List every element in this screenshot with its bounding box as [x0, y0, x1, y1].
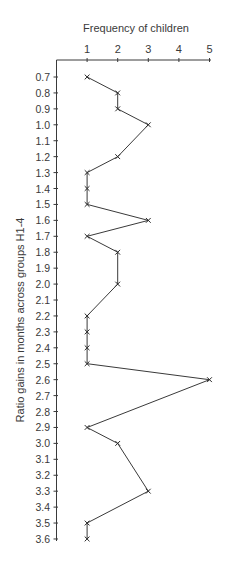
- y-ticks: 0.70.80.91.01.11.21.31.41.51.61.71.81.92…: [35, 71, 58, 545]
- x-tick-label: 4: [176, 43, 182, 55]
- y-tick-label: 1.3: [35, 167, 50, 179]
- x-tick-label: 1: [84, 43, 90, 55]
- y-tick-label: 1.7: [35, 230, 50, 242]
- y-tick-label: 3.3: [35, 485, 50, 497]
- y-tick-label: 0.7: [35, 71, 50, 83]
- y-tick-label: 1.4: [35, 183, 50, 195]
- y-tick-label: 2.5: [35, 358, 50, 370]
- y-tick-label: 1.2: [35, 151, 50, 163]
- y-tick-label: 1.0: [35, 119, 50, 131]
- y-tick-label: 2.3: [35, 326, 50, 338]
- y-tick-label: 2.6: [35, 374, 50, 386]
- data-point-x-marker: [146, 122, 151, 127]
- y-tick-label: 2.1: [35, 294, 50, 306]
- series-line: [87, 77, 209, 539]
- data-point-x-marker: [115, 441, 120, 446]
- y-axis-title: Ratio gains in months across groups H1-4: [14, 218, 26, 423]
- data-point-x-marker: [115, 154, 120, 159]
- y-tick-label: 0.9: [35, 103, 50, 115]
- x-axis-title: Frequency of children: [83, 22, 189, 34]
- y-tick-label: 1.5: [35, 198, 50, 210]
- y-tick-label: 2.8: [35, 406, 50, 418]
- x-tick-label: 2: [115, 43, 121, 55]
- series-group: [85, 75, 212, 542]
- y-tick-label: 3.0: [35, 437, 50, 449]
- data-point-x-marker: [85, 75, 90, 80]
- y-tick-label: 1.8: [35, 246, 50, 258]
- y-tick-label: 3.5: [35, 517, 50, 529]
- x-tick-label: 3: [145, 43, 151, 55]
- y-tick-label: 3.1: [35, 453, 50, 465]
- x-ticks: 12345: [84, 43, 213, 62]
- y-tick-label: 3.2: [35, 469, 50, 481]
- y-tick-label: 2.2: [35, 310, 50, 322]
- data-point-x-marker: [146, 489, 151, 494]
- y-tick-label: 3.6: [35, 533, 50, 545]
- y-tick-label: 0.8: [35, 87, 50, 99]
- frequency-line-chart: Frequency of children Ratio gains in mon…: [0, 0, 227, 576]
- y-tick-label: 1.1: [35, 135, 50, 147]
- y-tick-label: 1.6: [35, 214, 50, 226]
- y-tick-label: 2.0: [35, 278, 50, 290]
- y-tick-label: 3.4: [35, 501, 50, 513]
- y-tick-label: 2.9: [35, 421, 50, 433]
- y-tick-label: 1.9: [35, 262, 50, 274]
- data-point-x-marker: [85, 425, 90, 430]
- y-tick-label: 2.7: [35, 390, 50, 402]
- y-tick-label: 2.4: [35, 342, 50, 354]
- x-tick-label: 5: [206, 43, 212, 55]
